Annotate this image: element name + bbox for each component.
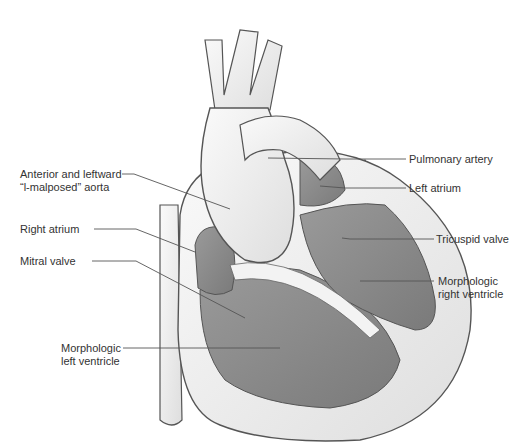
heart-diagram: Anterior and leftward “l-malposed” aorta… bbox=[0, 0, 520, 448]
label-left-ventricle: Morphologic left ventricle bbox=[61, 342, 121, 368]
label-pulmonary-artery: Pulmonary artery bbox=[409, 153, 493, 166]
label-mitral-valve: Mitral valve bbox=[20, 255, 76, 268]
label-tricuspid-valve: Tricuspid valve bbox=[436, 233, 509, 246]
label-aorta: Anterior and leftward “l-malposed” aorta bbox=[20, 168, 122, 194]
label-right-atrium: Right atrium bbox=[20, 223, 79, 236]
label-left-atrium: Left atrium bbox=[409, 182, 461, 195]
aortic-branches bbox=[205, 30, 282, 110]
label-right-ventricle: Morphologic right ventricle bbox=[438, 275, 503, 301]
